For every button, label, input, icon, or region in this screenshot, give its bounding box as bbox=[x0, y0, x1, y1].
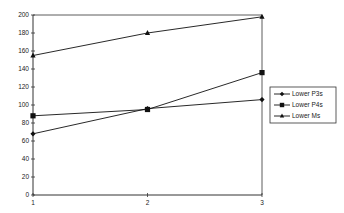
y-tick-label: 0 bbox=[25, 191, 29, 198]
square-marker-icon bbox=[259, 70, 264, 75]
square-marker-icon bbox=[30, 113, 35, 118]
legend: Lower P3sLower P4sLower Ms bbox=[270, 87, 336, 123]
y-axis: 020406080100120140160180200 bbox=[18, 11, 35, 198]
y-tick-label: 20 bbox=[22, 173, 30, 180]
y-tick-label: 160 bbox=[18, 47, 29, 54]
plot-area bbox=[33, 15, 262, 195]
square-marker-icon bbox=[280, 103, 284, 107]
y-tick-label: 100 bbox=[18, 101, 29, 108]
series-lower-ms bbox=[30, 14, 264, 58]
line-chart: 020406080100120140160180200 123 Lower P3… bbox=[0, 0, 344, 213]
series-lower-p4s bbox=[30, 70, 264, 118]
y-tick-label: 60 bbox=[22, 137, 30, 144]
legend-label: Lower P4s bbox=[292, 101, 323, 108]
x-tick-label: 2 bbox=[146, 199, 150, 206]
series-group bbox=[30, 14, 264, 137]
diamond-marker-icon bbox=[30, 131, 35, 136]
legend-label: Lower Ms bbox=[292, 112, 321, 119]
x-tick-label: 3 bbox=[260, 199, 264, 206]
y-tick-label: 140 bbox=[18, 65, 29, 72]
y-tick-label: 120 bbox=[18, 83, 29, 90]
legend-label: Lower P3s bbox=[292, 90, 323, 97]
x-tick-label: 1 bbox=[31, 199, 35, 206]
y-tick-label: 200 bbox=[18, 11, 29, 18]
series-line bbox=[33, 100, 262, 134]
series-lower-p3s bbox=[30, 97, 264, 136]
y-tick-label: 180 bbox=[18, 29, 29, 36]
series-line bbox=[33, 17, 262, 56]
square-marker-icon bbox=[145, 107, 150, 112]
x-axis: 123 bbox=[31, 193, 264, 206]
triangle-marker-icon bbox=[259, 14, 264, 19]
y-tick-label: 40 bbox=[22, 155, 30, 162]
y-tick-label: 80 bbox=[22, 119, 30, 126]
diamond-marker-icon bbox=[259, 97, 264, 102]
